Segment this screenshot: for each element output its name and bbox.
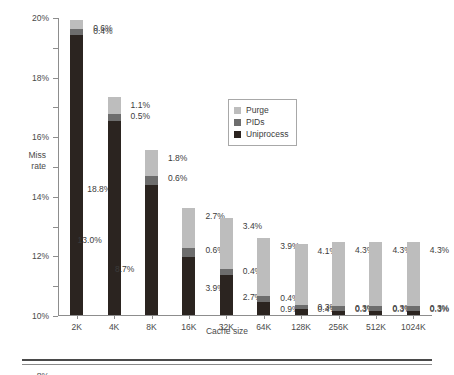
value-label-purge: 1.1% (131, 100, 150, 110)
value-label-uniprocess: 8.7% (115, 264, 134, 274)
x-axis-tick (413, 315, 414, 319)
y-axis-title-line2: rate (8, 161, 46, 172)
value-label-purge: 3.4% (243, 221, 262, 231)
legend: Purge PIDs Uniprocess (228, 99, 297, 146)
y-axis-tick-label: 10% (32, 311, 49, 321)
bar-segment-purge (145, 150, 158, 177)
bar-segment-pids (407, 306, 420, 310)
legend-item-purge: Purge (234, 105, 289, 116)
y-axis-tick-label: 14% (32, 192, 49, 202)
bar-4K[interactable] (108, 97, 121, 315)
bar-segment-pids (70, 29, 83, 35)
bar-segment-uniprocess (295, 309, 308, 315)
bar-segment-uniprocess (257, 302, 270, 315)
bar-segment-uniprocess (369, 311, 382, 315)
value-label-purge: 4.3% (430, 245, 449, 255)
bar-256K[interactable] (332, 242, 345, 315)
legend-item-pids: PIDs (234, 117, 289, 128)
bar-segment-uniprocess (145, 185, 158, 315)
legend-swatch-purge (234, 107, 241, 114)
y-axis-tick: 6% (53, 227, 58, 228)
y-axis-tick: 16% (53, 78, 58, 79)
legend-swatch-pids (234, 119, 241, 126)
bar-segment-pids (220, 269, 233, 275)
y-axis-tick-label: 18% (32, 73, 49, 83)
footer-rule-thick (22, 359, 432, 361)
bar-segment-uniprocess (70, 35, 83, 315)
miss-rate-stacked-bar-chart: Miss rate 0%2%4%6%8%10%12%14%16%18%20%2K… (0, 0, 454, 375)
bar-16K[interactable] (182, 208, 195, 315)
bar-segment-uniprocess (407, 311, 420, 315)
y-axis-tick: 18% (53, 48, 58, 49)
bar-segment-uniprocess (332, 311, 345, 315)
bar-8K[interactable] (145, 150, 158, 315)
bar-segment-purge (70, 20, 83, 29)
bar-segment-pids (145, 176, 158, 185)
x-axis-tick (152, 315, 153, 319)
legend-item-uniprocess: Uniprocess (234, 129, 289, 140)
legend-swatch-uniprocess (234, 131, 241, 138)
y-axis-tick-label: 16% (32, 132, 49, 142)
bar-1024K[interactable] (407, 242, 420, 315)
x-axis-tick (376, 315, 377, 319)
footer-rule-thin (22, 364, 432, 365)
y-axis-tick: 8% (53, 197, 58, 198)
y-axis-tick: 0% (53, 316, 58, 317)
bar-segment-uniprocess (182, 257, 195, 315)
y-axis-tick: 10% (53, 167, 58, 168)
y-axis-tick-label: 12% (32, 251, 49, 261)
y-axis-tick-label: 8% (37, 371, 49, 375)
value-label-pids: 0.4% (93, 26, 112, 36)
x-axis-tick (189, 315, 190, 319)
bar-32K[interactable] (220, 218, 233, 315)
y-axis-title-line1: Miss (8, 150, 46, 161)
value-label-pids: 0.5% (131, 111, 150, 121)
x-axis-tick (226, 315, 227, 319)
bar-segment-purge (220, 218, 233, 269)
x-axis-title: Cache size (0, 326, 454, 336)
bar-segment-purge (369, 242, 382, 306)
x-axis-tick (114, 315, 115, 319)
y-axis-tick: 20% (53, 18, 58, 19)
bar-segment-uniprocess (220, 275, 233, 315)
bar-segment-pids (182, 248, 195, 257)
value-label-uniprocess: 0.3% (430, 304, 449, 314)
bar-2K[interactable] (70, 20, 83, 315)
bar-segment-pids (257, 296, 270, 302)
bar-segment-pids (295, 305, 308, 309)
bar-segment-purge (332, 242, 345, 306)
bar-128K[interactable] (295, 243, 308, 315)
bar-segment-pids (108, 114, 121, 121)
bar-segment-purge (108, 97, 121, 113)
bar-segment-uniprocess (108, 121, 121, 315)
y-axis-tick-label: 20% (32, 13, 49, 23)
x-axis-tick (301, 315, 302, 319)
y-axis-line (58, 18, 59, 316)
y-axis-tick: 14% (53, 107, 58, 108)
bar-64K[interactable] (257, 238, 270, 315)
x-axis-tick (77, 315, 78, 319)
plot-area: 0%2%4%6%8%10%12%14%16%18%20%2K0.6%0.4%18… (58, 18, 432, 316)
value-label-pids: 0.6% (168, 173, 187, 183)
legend-label-uniprocess: Uniprocess (246, 129, 289, 140)
x-axis-tick (264, 315, 265, 319)
bar-segment-pids (369, 306, 382, 310)
y-axis-title: Miss rate (8, 150, 46, 172)
bar-segment-purge (182, 208, 195, 248)
bar-segment-pids (332, 306, 345, 310)
y-axis-tick: 2% (53, 286, 58, 287)
value-label-purge: 1.8% (168, 153, 187, 163)
bar-segment-purge (257, 238, 270, 296)
x-axis-tick (339, 315, 340, 319)
legend-label-purge: Purge (246, 105, 269, 116)
bar-512K[interactable] (369, 242, 382, 315)
bar-segment-purge (407, 242, 420, 306)
y-axis-tick: 4% (53, 256, 58, 257)
bar-segment-purge (295, 244, 308, 305)
legend-label-pids: PIDs (246, 117, 264, 128)
value-label-uniprocess: 13.0% (78, 235, 102, 245)
y-axis-tick: 12% (53, 137, 58, 138)
